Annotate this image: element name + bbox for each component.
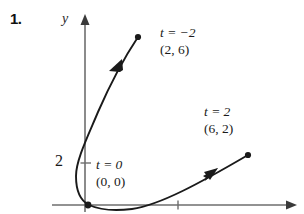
annotation-t-0: t = 0 (0, 0)	[96, 156, 125, 190]
annotation-t-2-t: t = 2	[204, 104, 230, 119]
direction-arrow-upper	[109, 59, 123, 72]
data-point-t-neg2	[135, 34, 141, 40]
data-point-t-2	[245, 152, 251, 158]
annotation-t-2-coords: (6, 2)	[204, 120, 233, 137]
annotation-t-0-coords: (0, 0)	[96, 173, 125, 190]
annotation-t-neg2: t = −2 (2, 6)	[160, 24, 195, 58]
annotation-t-0-t: t = 0	[96, 157, 122, 172]
parametric-curve-figure: 1. y 2 t	[0, 0, 304, 214]
y-axis	[81, 14, 92, 212]
y-tick-label-2: 2	[55, 152, 63, 170]
annotation-t-neg2-t: t = −2	[160, 25, 195, 40]
data-point-t-0	[85, 202, 92, 209]
y-axis-label: y	[62, 11, 68, 27]
annotation-t-neg2-coords: (2, 6)	[160, 41, 195, 58]
annotation-t-2: t = 2 (6, 2)	[204, 103, 233, 137]
plot-canvas	[0, 0, 304, 214]
